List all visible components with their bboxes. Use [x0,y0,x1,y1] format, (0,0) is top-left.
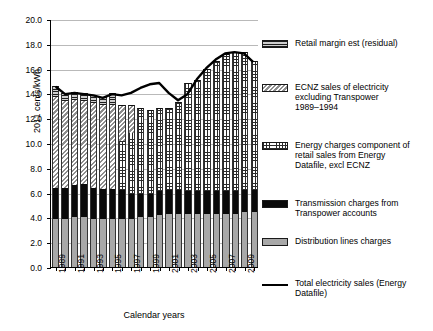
y-tick [47,243,51,244]
y-tick [47,194,51,195]
solid-black-swatch [262,200,288,208]
legend-item: Energy charges component of retail sales… [262,140,410,171]
y-tick-label: 4.0 [0,214,42,223]
y-tick [47,45,51,46]
legend-item: Retail margin est (residual) [262,38,398,48]
legend-item: Transmission charges from Transpower acc… [262,198,398,218]
y-axis-title: 2011 cents/kWh [32,46,42,156]
total-electricity-sales-polyline [56,52,254,100]
legend-label: Retail margin est (residual) [295,38,398,48]
y-tick [47,20,51,21]
y-tick [47,218,51,219]
x-tick-label: 2001 [171,254,180,273]
y-tick [47,169,51,170]
total-sales-line [51,20,258,267]
x-tick-label: 2009 [247,254,256,273]
legend-label: Distribution lines charges [295,236,391,246]
x-axis-title: Calendar years [50,310,258,320]
chart-figure: 0.02.04.06.08.010.012.014.016.018.020.0 … [0,0,433,331]
legend-label: Energy charges component of retail sales… [295,140,410,171]
legend-label: Total electricity sales (Energy Datafile… [295,278,406,298]
legend-item: ECNZ sales of electricity excluding Tran… [262,82,389,113]
y-tick-label: 20.0 [0,16,42,25]
y-tick-label: 8.0 [0,165,42,174]
x-tick-label: 1989 [58,254,67,273]
x-tick-label: 1999 [152,254,161,273]
x-tick-label: 1993 [96,254,105,273]
line-swatch [262,284,288,286]
legend-item: Distribution lines charges [262,236,391,246]
y-tick [47,94,51,95]
horizontal-stripe-swatch [262,40,288,48]
x-tick-label: 2005 [209,254,218,273]
cross-hatch-swatch [262,142,288,150]
solid-grey-swatch [262,238,288,246]
y-tick-label: 2.0 [0,239,42,248]
diagonal-hatch-swatch [262,84,288,92]
legend-label: Transmission charges from Transpower acc… [295,198,398,218]
y-tick [47,119,51,120]
x-tick-label: 1995 [114,254,123,273]
legend-label: ECNZ sales of electricity excluding Tran… [295,82,389,113]
y-tick-label: 6.0 [0,190,42,199]
x-tick-label: 1991 [77,254,86,273]
x-tick-label: 2003 [190,254,199,273]
y-tick [47,70,51,71]
plot-area [50,20,258,268]
y-tick-label: 0.0 [0,264,42,273]
x-tick-label: 2007 [228,254,237,273]
x-tick-label: 1997 [133,254,142,273]
y-tick [47,144,51,145]
legend-item: Total electricity sales (Energy Datafile… [262,278,406,298]
y-tick [47,268,51,269]
